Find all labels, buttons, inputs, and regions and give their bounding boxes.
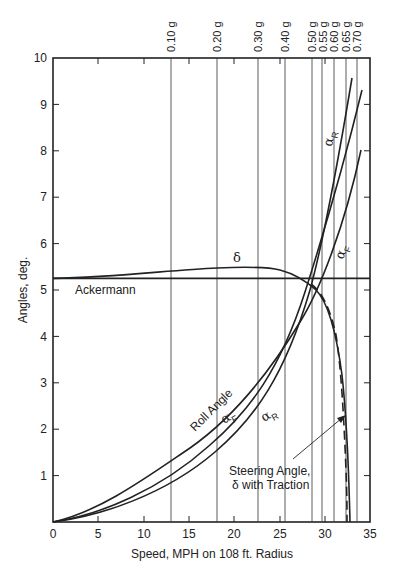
x-tick-25: 25 — [273, 527, 287, 541]
x-tick-30: 30 — [318, 527, 332, 541]
g-label-020: 0.20 g — [211, 21, 223, 52]
alpha-r-label-lower: α R — [258, 404, 281, 428]
x-tick-10: 10 — [137, 527, 151, 541]
delta-label: δ — [233, 250, 241, 265]
g-label-070: 0.70 g — [351, 21, 363, 52]
chart-figure: 0 5 10 15 20 25 30 35 1 2 3 4 5 6 7 8 9 … — [0, 0, 393, 573]
y-tick-4: 4 — [40, 330, 47, 344]
delta-traction-curve — [311, 284, 347, 522]
roll-angle-curve — [53, 150, 361, 522]
y-tick-9: 9 — [40, 98, 47, 112]
y-axis-title: Angles, deg. — [16, 257, 30, 324]
g-gridlines — [171, 58, 357, 522]
x-axis-title: Speed, MPH on 108 ft. Radius — [131, 547, 293, 561]
y-tick-8: 8 — [40, 144, 47, 158]
y-tick-7: 7 — [40, 190, 47, 204]
y-tick-10: 10 — [34, 51, 48, 65]
traction-label-line2: δ with Traction — [232, 478, 309, 492]
traction-arrow — [293, 418, 342, 459]
x-tick-35: 35 — [363, 527, 377, 541]
y-tick-labels: 1 2 3 4 5 6 7 8 9 10 — [34, 51, 48, 483]
x-tick-15: 15 — [182, 527, 196, 541]
g-label-040: 0.40 g — [279, 21, 291, 52]
g-label-060: 0.60 g — [328, 21, 340, 52]
g-label-010: 0.10 g — [165, 21, 177, 52]
subscript-r: R — [330, 131, 341, 140]
y-tick-3: 3 — [40, 376, 47, 390]
y-tick-2: 2 — [40, 422, 47, 436]
y-tick-1: 1 — [40, 469, 47, 483]
y-tick-5: 5 — [40, 283, 47, 297]
alpha-r-label-upper: α R — [320, 129, 341, 148]
x-tick-0: 0 — [50, 527, 57, 541]
x-tick-5: 5 — [95, 527, 102, 541]
g-labels: 0.10 g 0.20 g 0.30 g 0.40 g 0.50 g 0.55 … — [165, 21, 363, 52]
g-label-030: 0.30 g — [252, 21, 264, 52]
y-tick-6: 6 — [40, 237, 47, 251]
alpha-r-curve — [53, 78, 352, 522]
x-tick-20: 20 — [227, 527, 241, 541]
arrowhead-icon — [337, 415, 346, 423]
ackermann-label: Ackermann — [75, 283, 136, 297]
traction-label-line1: Steering Angle, — [229, 464, 310, 478]
x-tick-labels: 0 5 10 15 20 25 30 35 — [50, 527, 377, 541]
